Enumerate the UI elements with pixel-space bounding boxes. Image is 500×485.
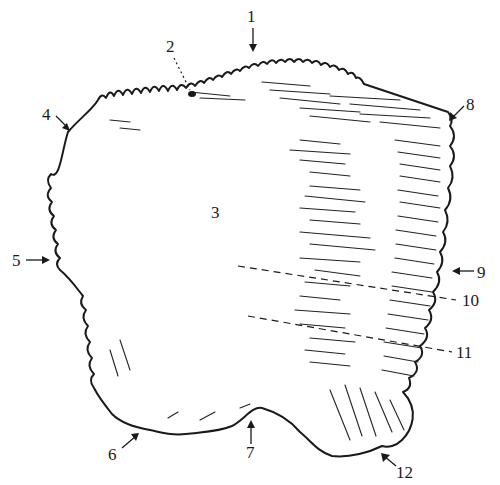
label-7: 7 (246, 443, 255, 462)
label-5: 5 (12, 251, 21, 270)
label-3: 3 (211, 203, 220, 222)
label-2: 2 (166, 37, 175, 56)
label-8: 8 (466, 95, 475, 114)
label-6: 6 (108, 445, 117, 464)
label-1: 1 (247, 7, 256, 26)
label-9: 9 (477, 263, 486, 282)
label-12: 12 (396, 463, 413, 482)
label-4: 4 (42, 105, 51, 124)
label-10: 10 (462, 291, 479, 310)
bone-diagram: 1 2 3 4 5 6 7 8 9 10 11 12 (0, 0, 500, 485)
foramen-mark (188, 91, 196, 97)
label-11: 11 (456, 343, 472, 362)
